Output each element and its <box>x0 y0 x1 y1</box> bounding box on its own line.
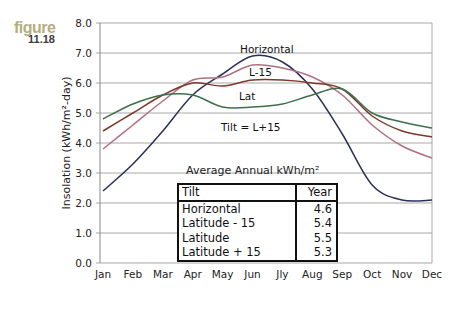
row-year: 4.6 <box>296 201 337 217</box>
row-year: 5.4 <box>296 216 337 231</box>
x-tick-label: Nov <box>392 268 413 280</box>
y-tick-label: 8.0 <box>75 17 92 29</box>
table-row: Latitude - 15 5.4 <box>178 216 337 231</box>
table-row: Latitude + 15 5.3 <box>178 245 337 261</box>
y-tick-label: 2.0 <box>75 197 92 209</box>
annotation-tilt-l15: Tilt = L+15 <box>220 121 281 133</box>
y-tick-label: 5.0 <box>75 107 92 119</box>
y-tick-label: 3.0 <box>75 167 92 179</box>
row-tilt: Latitude - 15 <box>178 216 296 231</box>
table-header-row: Tilt Year <box>178 184 337 201</box>
header-tilt: Tilt <box>178 184 296 201</box>
y-tick-label: 4.0 <box>75 137 92 149</box>
x-tick-label: Jly <box>275 268 288 280</box>
table-row: Latitude 5.5 <box>178 231 337 246</box>
row-tilt: Latitude <box>178 231 296 246</box>
x-tick-label: Jun <box>243 268 260 280</box>
row-tilt: Latitude + 15 <box>178 245 296 261</box>
insolation-chart: 0.01.02.03.04.05.06.07.08.0 JanFebMarApr… <box>0 0 458 317</box>
x-tick-label: Sep <box>332 268 352 280</box>
table-row: Horizontal 4.6 <box>178 201 337 217</box>
row-tilt: Horizontal <box>178 201 296 217</box>
annotation-lat: Lat <box>239 90 255 102</box>
x-tick-label: Oct <box>363 268 381 280</box>
y-tick-label: 6.0 <box>75 77 92 89</box>
x-tick-label: Mar <box>153 268 173 280</box>
y-tick-label: 1.0 <box>75 227 92 239</box>
inset-table-title: Average Annual kWh/m² <box>186 164 319 177</box>
y-axis-label: Insolation (kWh/m²-day) <box>60 77 73 210</box>
x-tick-label: Apr <box>184 268 203 280</box>
x-tick-label: Jan <box>94 268 111 280</box>
row-year: 5.3 <box>296 245 337 261</box>
x-tick-label: May <box>212 268 234 280</box>
annotation-l-15: L-15 <box>249 66 272 78</box>
annual-average-table: Tilt Year Horizontal 4.6 Latitude - 15 5… <box>177 183 338 262</box>
x-tick-label: Feb <box>124 268 143 280</box>
y-tick-label: 0.0 <box>75 257 92 269</box>
annotation-horizontal: Horizontal <box>240 43 294 55</box>
x-tick-label: Dec <box>422 268 443 280</box>
y-tick-label: 7.0 <box>75 47 92 59</box>
x-axis-ticks: JanFebMarAprMayJunJlyAugSepOctNovDec <box>94 268 442 280</box>
row-year: 5.5 <box>296 231 337 246</box>
y-axis-ticks: 0.01.02.03.04.05.06.07.08.0 <box>75 17 92 269</box>
x-tick-label: Aug <box>302 268 323 280</box>
header-year: Year <box>296 184 337 201</box>
